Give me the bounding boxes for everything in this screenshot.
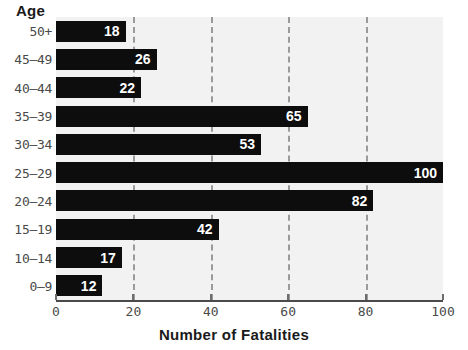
y-tick-label-20–24: 20–24 bbox=[0, 193, 52, 208]
bar-50+: 18 bbox=[56, 21, 126, 42]
x-tick-label-20: 20 bbox=[126, 304, 142, 319]
bar-20–24: 82 bbox=[56, 190, 373, 211]
bar-series: 182622655310082421712 bbox=[56, 17, 443, 300]
y-tick-label-30–34: 30–34 bbox=[0, 137, 52, 152]
x-axis-line bbox=[56, 300, 443, 302]
x-tick-label-0: 0 bbox=[52, 304, 60, 319]
x-tick-mark-20 bbox=[132, 294, 134, 300]
bar-35–39: 65 bbox=[56, 106, 308, 127]
x-tick-label-40: 40 bbox=[203, 304, 219, 319]
bar-40–44: 22 bbox=[56, 77, 141, 98]
bar-value-label: 82 bbox=[352, 194, 374, 208]
bar-value-label: 42 bbox=[197, 222, 219, 236]
bar-value-label: 18 bbox=[104, 24, 126, 38]
y-tick-label-35–39: 35–39 bbox=[0, 109, 52, 124]
bar-value-label: 22 bbox=[120, 81, 142, 95]
bar-value-label: 100 bbox=[414, 166, 443, 180]
y-tick-label-50+: 50+ bbox=[0, 24, 52, 39]
bar-45–49: 26 bbox=[56, 49, 157, 70]
bar-value-label: 12 bbox=[81, 279, 103, 293]
bar-15–19: 42 bbox=[56, 219, 219, 240]
x-tick-label-80: 80 bbox=[358, 304, 374, 319]
bar-value-label: 17 bbox=[100, 251, 122, 265]
bar-value-label: 65 bbox=[286, 109, 308, 123]
y-tick-label-10–14: 10–14 bbox=[0, 250, 52, 265]
bar-10–14: 17 bbox=[56, 247, 122, 268]
bar-30–34: 53 bbox=[56, 134, 261, 155]
x-tick-mark-40 bbox=[210, 294, 212, 300]
x-tick-mark-60 bbox=[287, 294, 289, 300]
x-tick-mark-80 bbox=[365, 294, 367, 300]
x-tick-label-100: 100 bbox=[431, 304, 454, 319]
bar-value-label: 26 bbox=[135, 52, 157, 66]
y-tick-label-40–44: 40–44 bbox=[0, 80, 52, 95]
bar-chart: Age 50+45–4940–4435–3930–3425–2920–2415–… bbox=[0, 0, 468, 350]
bar-0–9: 12 bbox=[56, 275, 102, 296]
y-tick-label-25–29: 25–29 bbox=[0, 165, 52, 180]
y-axis-tick-labels: 50+45–4940–4435–3930–3425–2920–2415–1910… bbox=[0, 17, 52, 300]
x-tick-mark-0 bbox=[55, 294, 57, 300]
bar-25–29: 100 bbox=[56, 162, 443, 183]
x-axis-title: Number of Fatalities bbox=[0, 326, 468, 343]
y-tick-label-45–49: 45–49 bbox=[0, 52, 52, 67]
bar-value-label: 53 bbox=[240, 137, 262, 151]
y-tick-label-0–9: 0–9 bbox=[0, 278, 52, 293]
plot-area: 182622655310082421712 bbox=[56, 17, 443, 300]
x-tick-label-60: 60 bbox=[280, 304, 296, 319]
x-tick-mark-100 bbox=[442, 294, 444, 300]
y-tick-label-15–19: 15–19 bbox=[0, 222, 52, 237]
